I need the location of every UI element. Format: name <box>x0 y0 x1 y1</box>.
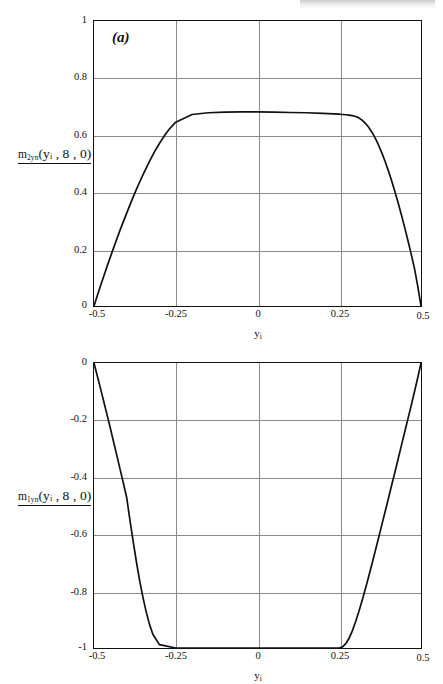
x-axis-title-a: yi <box>243 327 273 339</box>
ytick-a-0.2: 0.2 <box>55 244 87 255</box>
xtick-a--0.5: -0.5 <box>82 308 112 319</box>
xtick-b--0.5: -0.5 <box>82 650 112 661</box>
figure-panel-a: (a) 1 0.8 0.6 0.4 0.2 0 -0.5 -0.25 0 0.2… <box>0 0 443 342</box>
xtick-a--0.25: -0.25 <box>160 308 192 319</box>
ytick-b--0.2: -0.2 <box>47 413 87 424</box>
xtick-b-0.5: 0.5 <box>408 652 438 663</box>
plot-inner-a <box>94 21 421 306</box>
ytick-b--0.6: -0.6 <box>47 528 87 539</box>
ytick-b--1: -1 <box>47 641 87 652</box>
ytick-b--0.8: -0.8 <box>47 586 87 597</box>
ytick-a-0.6: 0.6 <box>55 129 87 140</box>
xtick-a-0.25: 0.25 <box>325 308 355 319</box>
ytick-b--0.4: -0.4 <box>47 471 87 482</box>
ytick-b-0: 0 <box>55 356 87 367</box>
ytick-a-1: 1 <box>55 14 87 25</box>
xtick-a-0: 0 <box>247 308 269 319</box>
xtick-b-0: 0 <box>247 650 269 661</box>
figure-panel-b: (b) 0 -0.2 -0.4 -0.6 -0.8 -1 -0.5 -0.25 … <box>0 342 443 684</box>
data-curve-a <box>94 21 421 306</box>
y-axis-title-a: m2yn(yᵢ , 8 , 0) <box>18 146 91 164</box>
xtick-a-0.5: 0.5 <box>408 310 438 321</box>
panel-label-a: (a) <box>112 29 130 46</box>
ytick-a-0.8: 0.8 <box>55 71 87 82</box>
xtick-b--0.25: -0.25 <box>160 650 192 661</box>
plot-area-a <box>93 20 422 307</box>
plot-inner-b <box>94 363 421 648</box>
plot-area-b <box>93 362 422 649</box>
x-axis-title-b: yi <box>243 669 273 681</box>
y-axis-title-b: m1yn(yᵢ , 8 , 0) <box>18 488 91 506</box>
data-curve-b <box>94 363 421 648</box>
xtick-b-0.25: 0.25 <box>325 650 355 661</box>
ytick-a-0.4: 0.4 <box>55 186 87 197</box>
